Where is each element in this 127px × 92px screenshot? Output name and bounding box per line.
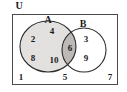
element-a-only-4: 4 <box>50 26 55 36</box>
element-intersection-6: 6 <box>68 43 73 53</box>
element-a-only-2: 2 <box>31 34 36 44</box>
venn-diagram-svg: U A B 2 4 8 10 6 3 <box>0 0 127 92</box>
element-outside-7: 7 <box>108 72 113 82</box>
universal-set-label: U <box>15 0 22 11</box>
element-a-only-10: 10 <box>50 55 60 65</box>
set-a-label: A <box>44 14 52 25</box>
venn-diagram-canvas: U A B 2 4 8 10 6 3 <box>0 0 127 92</box>
element-outside-5: 5 <box>63 72 68 82</box>
element-a-only-8: 8 <box>31 53 36 63</box>
element-b-only-3: 3 <box>84 34 89 44</box>
set-b-label: B <box>80 18 87 29</box>
element-b-only-9: 9 <box>84 53 89 63</box>
element-outside-1: 1 <box>19 72 24 82</box>
